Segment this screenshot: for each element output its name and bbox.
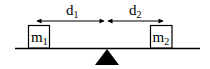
- lever-diagram: m1 m2 d1 d2: [0, 0, 210, 69]
- svg-text:d2: d2: [129, 2, 142, 20]
- fulcrum-triangle: [95, 49, 119, 65]
- mass-m1-label: m: [31, 29, 43, 45]
- distance-d1-subscript: 1: [74, 9, 79, 20]
- mass-m1-subscript: 1: [43, 36, 48, 47]
- mass-m2-label: m: [153, 29, 165, 45]
- mass-m2: m2: [151, 26, 173, 49]
- mass-m1: m1: [29, 26, 50, 49]
- svg-text:d1: d1: [66, 2, 79, 20]
- mass-m2-subscript: 2: [164, 36, 169, 47]
- distance-d2-subscript: 2: [137, 9, 142, 20]
